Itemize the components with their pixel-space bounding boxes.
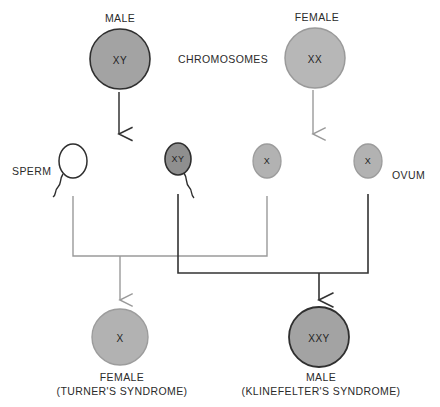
offspring-female-genotype: X — [116, 333, 123, 344]
male-parent-genotype: XY — [113, 55, 127, 66]
offspring-female-sex-label: FEMALE — [100, 371, 144, 384]
sperm-label: SPERM — [12, 165, 51, 178]
sperm-empty-tail — [53, 174, 63, 197]
sperm-xy-tail — [184, 173, 194, 198]
sperm-xy-genotype: XY — [171, 154, 184, 164]
turner-bracket — [73, 196, 267, 256]
ovum-label: OVUM — [392, 169, 425, 182]
ovum-x-right-genotype: X — [365, 156, 372, 166]
female-parent-label: FEMALE — [295, 11, 339, 24]
offspring-male-condition-label: (KLINEFELTER'S SYNDROME) — [241, 385, 400, 398]
offspring-male-sex-label: MALE — [306, 371, 336, 384]
offspring-male-genotype: XXY — [308, 333, 330, 344]
genetics-diagram: XY XX XY X X X XXY MALE FEMALE CHROMOSOM… — [0, 0, 440, 407]
ovum-x-left-genotype: X — [264, 156, 271, 166]
offspring-female-condition-label: (TURNER'S SYNDROME) — [57, 385, 188, 398]
sperm-empty-head — [59, 144, 87, 178]
klinefelter-bracket — [178, 194, 368, 273]
male-parent-label: MALE — [105, 12, 135, 25]
female-parent-genotype: XX — [308, 54, 322, 65]
chromosomes-label: CHROMOSOMES — [178, 53, 268, 66]
